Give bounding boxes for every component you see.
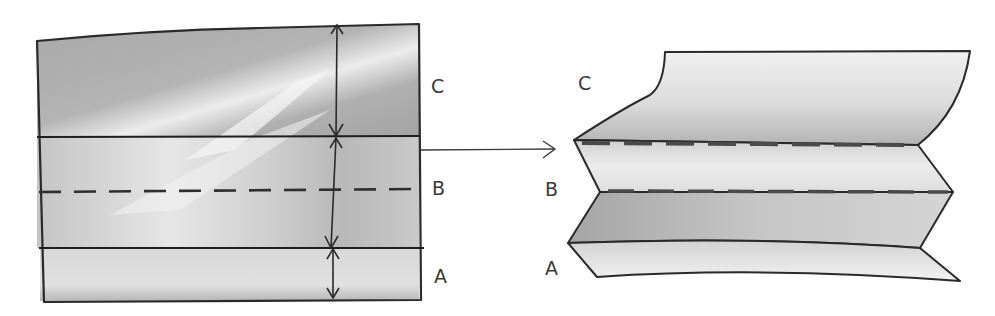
folding-diagram: C B A C B A (0, 0, 995, 316)
band-a (40, 248, 419, 301)
label-c-left: C (431, 75, 444, 97)
pleated-sheet: C B A (545, 51, 970, 281)
pleat-b-lower (568, 192, 953, 248)
fold-line-top (37, 136, 419, 137)
pleat-dashed-mid (608, 191, 948, 192)
pleat-c (574, 51, 970, 145)
pleat-a (568, 240, 960, 281)
flat-sheet: C B A (37, 24, 447, 302)
pleat-b-upper (574, 140, 953, 192)
label-b-left: B (432, 177, 445, 199)
band-c (37, 24, 419, 137)
transition-arrow (421, 141, 555, 158)
label-c-right: C (578, 72, 591, 94)
label-a-right: A (545, 257, 558, 279)
label-a-left: A (434, 265, 447, 287)
label-b-right: B (545, 178, 558, 200)
